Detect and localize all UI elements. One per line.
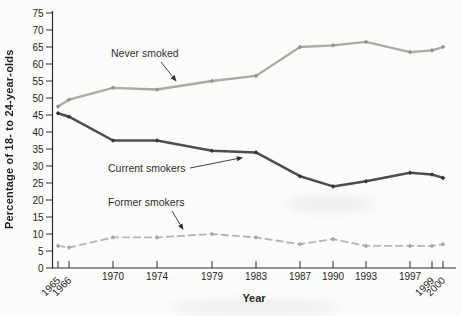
x-tick-label: 1990: [322, 271, 345, 282]
never-smoked-label: Never smoked: [111, 47, 179, 59]
y-tick-label: 60: [32, 59, 44, 70]
current-smokers-arrowhead: [236, 156, 243, 161]
data-point-marker-former-smokers: [254, 235, 259, 240]
x-tick-label: 1974: [146, 271, 169, 282]
y-tick-label: 40: [32, 127, 44, 138]
data-point-marker-never-smoked: [408, 50, 413, 55]
never-smoked-arrowhead: [171, 75, 177, 81]
y-tick-label: 0: [38, 263, 44, 274]
data-point-marker-never-smoked: [331, 43, 336, 48]
y-tick-label: 70: [32, 25, 44, 36]
data-point-marker-former-smokers: [364, 244, 369, 249]
former-smokers-label: Former smokers: [108, 196, 184, 208]
data-point-marker-former-smokers: [67, 245, 72, 250]
x-tick-label: 1970: [102, 271, 125, 282]
x-tick-label: 1997: [399, 271, 422, 282]
y-tick-label: 50: [32, 93, 44, 104]
series-line-former-smokers: [58, 234, 443, 248]
y-tick-label: 35: [32, 144, 44, 155]
data-point-marker-former-smokers: [441, 242, 446, 247]
y-tick-label: 5: [38, 246, 44, 257]
scan-artifact: [285, 196, 375, 212]
smoking-status-line-chart: 0510152025303540455055606570751965196619…: [0, 0, 461, 316]
data-point-marker-never-smoked: [364, 40, 369, 45]
current-smokers-label: Current smokers: [108, 162, 186, 174]
data-point-marker-former-smokers: [155, 235, 160, 240]
y-axis-label: Percentage of 18- to 24-year-olds: [3, 30, 15, 248]
current-smokers-arrow-line: [190, 159, 237, 168]
data-point-marker-former-smokers: [210, 232, 215, 237]
data-point-marker-never-smoked: [210, 79, 215, 84]
y-tick-label: 20: [32, 195, 44, 206]
y-tick-label: 10: [32, 229, 44, 240]
data-point-marker-never-smoked: [155, 87, 160, 92]
data-point-marker-former-smokers: [56, 244, 61, 249]
x-tick-label: 1979: [201, 271, 224, 282]
data-point-marker-former-smokers: [408, 244, 413, 249]
data-point-marker-former-smokers: [331, 237, 336, 242]
y-tick-label: 45: [32, 110, 44, 121]
data-point-marker-current-smokers: [210, 148, 215, 153]
y-tick-label: 75: [32, 8, 44, 19]
x-tick-label: 1987: [289, 271, 312, 282]
chart-canvas: 0510152025303540455055606570751965196619…: [0, 0, 461, 316]
series-line-current-smokers: [58, 113, 443, 186]
data-point-marker-current-smokers: [155, 138, 160, 143]
never-smoked-arrow-line: [161, 62, 173, 77]
y-tick-label: 15: [32, 212, 44, 223]
scan-artifact: [170, 300, 340, 314]
y-tick-label: 25: [32, 178, 44, 189]
x-tick-label: 1983: [245, 271, 268, 282]
data-point-marker-current-smokers: [364, 179, 369, 184]
y-tick-label: 65: [32, 42, 44, 53]
former-smokers-arrowhead: [178, 223, 183, 230]
data-point-marker-current-smokers: [408, 171, 413, 176]
data-point-marker-former-smokers: [111, 235, 116, 240]
y-tick-label: 30: [32, 161, 44, 172]
data-point-marker-former-smokers: [298, 242, 303, 247]
former-smokers-arrow-line: [172, 211, 180, 225]
data-point-marker-former-smokers: [430, 244, 435, 249]
y-tick-label: 55: [32, 76, 44, 87]
x-tick-label: 1993: [355, 271, 378, 282]
